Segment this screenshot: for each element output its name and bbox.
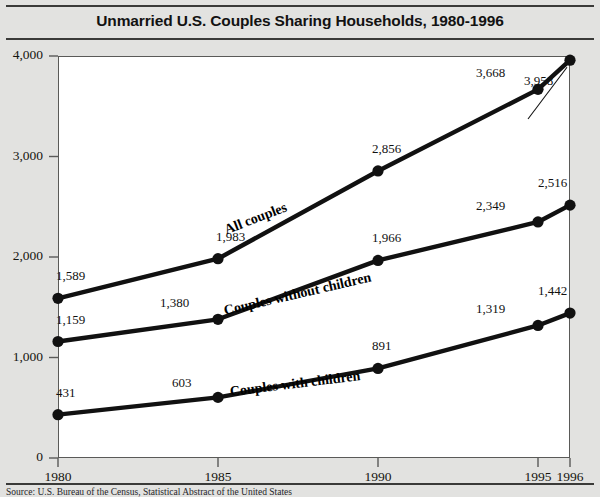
- data-value-label: 1,966: [372, 230, 401, 246]
- data-value-label: 3,958: [524, 73, 553, 89]
- plot-wrapper: 01,0002,0003,0004,000 198019851990199519…: [0, 0, 600, 497]
- footer-rule: [6, 483, 594, 485]
- plot-svg: [0, 0, 600, 497]
- data-value-label: 1,589: [56, 268, 85, 284]
- data-value-label: 603: [172, 375, 192, 391]
- data-value-label: 2,516: [538, 175, 567, 191]
- series-lines: [58, 60, 570, 414]
- source-note: Source: U.S. Bureau of the Census, Stati…: [6, 487, 598, 497]
- chart-figure: Unmarried U.S. Couples Sharing Household…: [0, 0, 600, 497]
- data-value-label: 1,159: [56, 312, 85, 328]
- data-value-label: 2,856: [372, 141, 401, 157]
- y-tick-label: 4,000: [0, 47, 43, 63]
- data-value-label: 431: [56, 385, 76, 401]
- data-value-label: 1,380: [160, 295, 189, 311]
- y-tick-label: 2,000: [0, 248, 43, 264]
- y-tick-label: 0: [0, 449, 43, 465]
- data-value-label: 3,668: [476, 65, 505, 81]
- data-value-label: 1,442: [538, 283, 567, 299]
- data-value-label: 891: [372, 338, 392, 354]
- y-tick-label: 1,000: [0, 349, 43, 365]
- data-value-label: 1,319: [476, 301, 505, 317]
- data-value-label: 2,349: [476, 198, 505, 214]
- y-tick-label: 3,000: [0, 148, 43, 164]
